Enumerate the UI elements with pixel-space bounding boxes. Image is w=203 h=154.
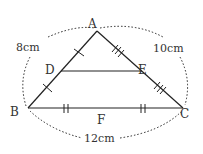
arc-ac-length: [100, 26, 163, 37]
arc-bc-length-right: [120, 112, 181, 138]
arc-bc-length-left: [30, 111, 82, 138]
tick-db: [43, 84, 52, 92]
label-e: E: [138, 63, 147, 77]
label-f: F: [97, 113, 105, 127]
arc-ab-length-lower: [23, 57, 30, 106]
label-d: D: [45, 63, 55, 77]
label-c: C: [180, 107, 189, 121]
diagram-canvas: A B C D E F 8cm 10cm 12cm: [0, 0, 203, 154]
length-ac: 10cm: [153, 42, 184, 55]
length-ab: 8cm: [16, 41, 40, 54]
length-bc: 12cm: [84, 132, 115, 145]
label-b: B: [10, 105, 19, 119]
triangle-diagram: A B C D E F 8cm 10cm 12cm: [0, 0, 203, 154]
label-a: A: [87, 17, 97, 31]
arc-ac-length-lower: [180, 57, 188, 105]
